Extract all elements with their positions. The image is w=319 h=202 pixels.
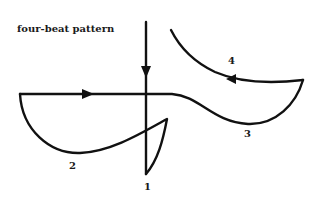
conducting-pattern-diagram: 4 2 1 3	[0, 0, 319, 202]
beat-label-3: 3	[244, 128, 251, 139]
beat-3-path	[20, 80, 303, 124]
beat-4-path	[171, 30, 303, 82]
beat-label-4: 4	[228, 55, 235, 66]
beat-label-1: 1	[144, 181, 151, 192]
arrow-down-icon	[141, 66, 151, 78]
arrow-right-icon	[82, 89, 94, 99]
beat-label-2: 2	[69, 160, 76, 171]
